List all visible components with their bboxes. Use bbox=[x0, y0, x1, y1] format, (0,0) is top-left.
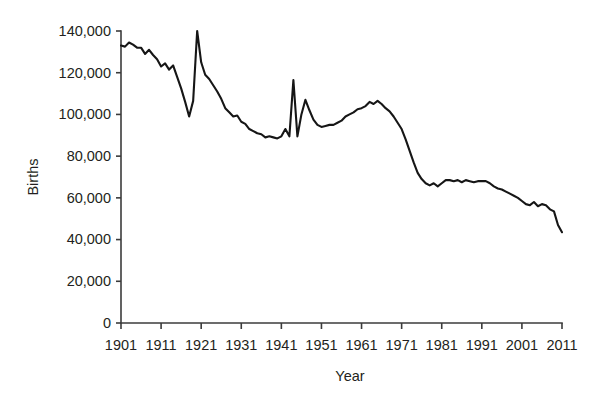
x-tick-label: 1961 bbox=[345, 337, 377, 353]
y-tick-label: 40,000 bbox=[67, 231, 111, 247]
x-tick-label: 1931 bbox=[225, 337, 257, 353]
x-axis-tick-marks bbox=[121, 323, 562, 329]
x-tick-label: 1941 bbox=[265, 337, 297, 353]
plot-area bbox=[121, 31, 562, 232]
x-tick-label: 2001 bbox=[506, 337, 538, 353]
x-tick-label: 1921 bbox=[185, 337, 217, 353]
x-axis-group: 1901191119211931194119511961197119811991… bbox=[105, 323, 578, 384]
y-tick-label: 0 bbox=[103, 315, 111, 331]
y-tick-label: 60,000 bbox=[67, 190, 111, 206]
y-axis-group: 020,00040,00060,00080,000100,000120,0001… bbox=[25, 23, 121, 331]
y-tick-label: 140,000 bbox=[59, 23, 111, 39]
y-axis-tick-labels: 020,00040,00060,00080,000100,000120,0001… bbox=[59, 23, 111, 331]
x-axis-title: Year bbox=[335, 368, 364, 384]
y-tick-label: 80,000 bbox=[67, 148, 111, 164]
x-tick-label: 2011 bbox=[546, 337, 577, 353]
x-tick-label: 1991 bbox=[466, 337, 498, 353]
births-series-line bbox=[121, 31, 562, 232]
x-tick-label: 1951 bbox=[305, 337, 337, 353]
x-axis-tick-labels: 1901191119211931194119511961197119811991… bbox=[105, 337, 578, 353]
y-tick-label: 20,000 bbox=[67, 273, 111, 289]
y-axis-title: Births bbox=[25, 158, 41, 195]
chart-canvas: 020,00040,00060,00080,000100,000120,0001… bbox=[0, 0, 604, 408]
y-tick-label: 120,000 bbox=[59, 65, 111, 81]
x-tick-label: 1971 bbox=[386, 337, 418, 353]
y-tick-label: 100,000 bbox=[59, 106, 111, 122]
births-by-year-chart: 020,00040,00060,00080,000100,000120,0001… bbox=[0, 0, 604, 408]
x-tick-label: 1911 bbox=[145, 337, 176, 353]
x-tick-label: 1981 bbox=[426, 337, 458, 353]
x-tick-label: 1901 bbox=[105, 337, 137, 353]
